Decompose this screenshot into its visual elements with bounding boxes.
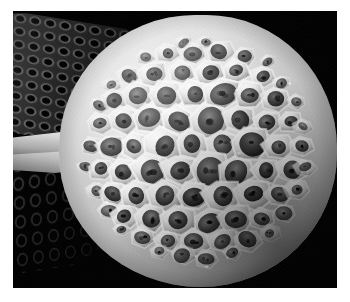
spherical-lattice-specimen (59, 15, 337, 287)
sem-micrograph-figure (0, 0, 350, 302)
micrograph-plate (13, 11, 337, 288)
hexagonal-cell-lattice (59, 15, 337, 287)
